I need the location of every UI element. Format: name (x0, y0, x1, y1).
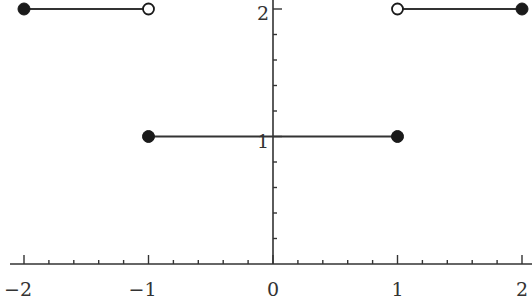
tick-labels: −2−101212 (4, 2, 528, 300)
open-endpoint-dot (143, 4, 154, 15)
x-tick-label: −1 (128, 278, 156, 300)
closed-endpoint-dot (18, 3, 30, 15)
x-tick-label: −2 (4, 278, 32, 300)
y-tick-label: 1 (257, 130, 269, 152)
closed-endpoint-dot (516, 3, 528, 15)
x-tick-label: 1 (391, 278, 403, 300)
step-function-chart: −2−101212 (0, 0, 532, 302)
segment-right (392, 3, 528, 15)
closed-endpoint-dot (143, 131, 155, 143)
open-endpoint-dot (392, 4, 403, 15)
x-tick-label: 2 (516, 278, 528, 300)
closed-endpoint-dot (392, 131, 404, 143)
axes (10, 0, 532, 264)
x-tick-label: 0 (267, 278, 279, 300)
y-tick-label: 2 (257, 2, 269, 24)
segment-left (18, 3, 154, 15)
